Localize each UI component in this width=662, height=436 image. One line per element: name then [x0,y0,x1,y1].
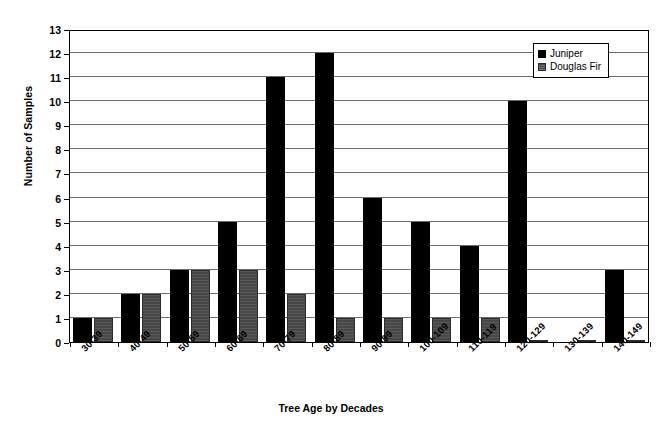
y-axis-title: Number of Samples [22,56,34,216]
y-axis-tick-label: 2 [35,290,61,301]
bar-group [266,31,311,342]
bar-group [411,31,456,342]
legend-swatch-juniper-icon [538,50,546,58]
y-axis-tick-label: 1 [35,314,61,325]
legend-label: Juniper [550,47,583,60]
bar-juniper [363,198,382,342]
x-axis-tick-labels: 30-3940-4950-5960-6970-7980-8990-99100-1… [69,346,649,402]
y-axis-tick-label: 13 [35,25,61,36]
y-axis-tick-label: 3 [35,266,61,277]
x-axis-title: Tree Age by Decades [0,402,662,414]
bar-juniper [170,270,189,342]
y-axis-tick-label: 11 [35,73,61,84]
y-axis-tick-label: 4 [35,242,61,253]
x-axis-tick-mark [650,342,651,347]
y-axis-tick-label: 8 [35,145,61,156]
legend-item: Juniper [538,47,601,60]
y-axis-tick-label: 7 [35,169,61,180]
bar-group [121,31,166,342]
bar-group [170,31,215,342]
bar-juniper [508,101,527,342]
bar-group [605,31,650,342]
legend-item: Douglas Fir [538,60,601,73]
bar-juniper [266,77,285,342]
bar-juniper [605,270,624,342]
y-axis-tick-label: 5 [35,218,61,229]
y-axis-tick-mark [64,343,69,344]
y-axis-tick-label: 9 [35,121,61,132]
legend-swatch-douglas-fir-icon [538,63,546,71]
bar-group [73,31,118,342]
bar-juniper [460,246,479,342]
bar-juniper [315,53,334,342]
bar-juniper [218,222,237,342]
legend-label: Douglas Fir [550,60,601,73]
bar-chart: Number of Samples 012345678910111213 30-… [0,0,662,436]
bar-juniper [411,222,430,342]
y-axis-tick-label: 12 [35,49,61,60]
bar-group [363,31,408,342]
bar-group [460,31,505,342]
legend: Juniper Douglas Fir [533,43,609,78]
y-axis-tick-label: 10 [35,97,61,108]
y-axis-tick-label: 6 [35,194,61,205]
bar-group [218,31,263,342]
bar-group [315,31,360,342]
y-axis-tick-label: 0 [35,338,61,349]
